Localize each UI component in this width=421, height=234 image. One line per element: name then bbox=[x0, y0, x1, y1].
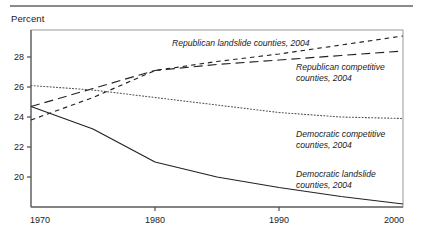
line-chart-plot: 2022242628 1970198019902000 Republican l… bbox=[0, 0, 421, 234]
x-tick-label: 1980 bbox=[145, 215, 165, 225]
annotation-line: Republican competitive bbox=[296, 62, 385, 72]
annotation-line: counties, 2004 bbox=[296, 140, 352, 150]
annotation-line: Democratic competitive bbox=[296, 129, 386, 139]
chart-figure: Percent 2022242628 1970198019902000 Repu… bbox=[0, 0, 421, 234]
y-tick-label: 24 bbox=[14, 112, 24, 122]
series-annotations: Republican landslide counties, 2004Repub… bbox=[172, 38, 386, 190]
annotation-democratic-landslide: Democratic landslidecounties, 2004 bbox=[296, 169, 376, 190]
x-axis-ticks: 1970198019902000 bbox=[30, 207, 404, 225]
annotation-republican-landslide: Republican landslide counties, 2004 bbox=[172, 38, 310, 48]
annotation-democratic-competitive: Democratic competitivecounties, 2004 bbox=[296, 129, 386, 150]
x-tick-label: 1970 bbox=[30, 215, 50, 225]
y-tick-label: 20 bbox=[14, 172, 24, 182]
annotation-line: Republican landslide counties, 2004 bbox=[172, 38, 310, 48]
y-tick-label: 22 bbox=[14, 142, 24, 152]
y-tick-label: 26 bbox=[14, 82, 24, 92]
annotation-line: counties, 2004 bbox=[296, 180, 352, 190]
x-tick-label: 2000 bbox=[384, 215, 404, 225]
x-tick-label: 1990 bbox=[269, 215, 289, 225]
y-tick-label: 28 bbox=[14, 52, 24, 62]
annotation-republican-competitive: Republican competitivecounties, 2004 bbox=[296, 62, 385, 83]
y-axis-ticks: 2022242628 bbox=[14, 52, 31, 182]
annotation-line: counties, 2004 bbox=[296, 73, 352, 83]
annotation-line: Democratic landslide bbox=[296, 169, 376, 179]
